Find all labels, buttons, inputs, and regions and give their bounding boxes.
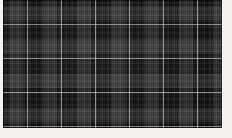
image-canvas bbox=[0, 0, 232, 138]
lighting-vignette bbox=[3, 0, 222, 128]
plaid-fabric-swatch bbox=[3, 0, 222, 128]
